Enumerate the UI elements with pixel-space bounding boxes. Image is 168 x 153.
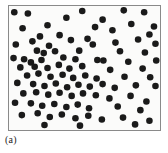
- scatter-point: [44, 65, 51, 72]
- scatter-point: [142, 49, 149, 56]
- scatter-point: [40, 50, 47, 57]
- scatter-point: [41, 83, 48, 90]
- scatter-point: [19, 25, 26, 32]
- scatter-point: [86, 105, 93, 112]
- scatter-point: [56, 32, 63, 39]
- scatter-point: [137, 107, 144, 114]
- scatter-point: [68, 93, 75, 100]
- scatter-point: [93, 92, 100, 99]
- scatter-point: [92, 24, 99, 31]
- scatter-point: [80, 90, 87, 97]
- scatter-point: [45, 91, 52, 98]
- scatter-point: [37, 33, 44, 40]
- scatter-point: [34, 110, 41, 117]
- scatter-point: [77, 122, 84, 129]
- scatter-point: [120, 7, 127, 14]
- scatter-point: [117, 48, 124, 55]
- scatter-point: [56, 90, 63, 97]
- scatter-point: [10, 55, 17, 62]
- scatter-point: [99, 116, 106, 123]
- scatter-point: [127, 93, 134, 100]
- scatter-point: [17, 64, 24, 71]
- scatter-point: [79, 63, 86, 70]
- scatter-point: [79, 8, 86, 15]
- scatter-point: [72, 56, 79, 63]
- scatter-points-layer: [9, 6, 160, 130]
- scatter-point: [59, 72, 66, 79]
- scatter-point: [41, 122, 48, 129]
- scatter-point: [64, 84, 71, 91]
- scatter-point: [120, 114, 127, 121]
- scatter-point: [35, 70, 42, 77]
- scatter-point: [21, 56, 28, 63]
- scatter-point: [143, 98, 150, 105]
- scatter-point: [114, 103, 121, 110]
- scatter-point: [100, 57, 107, 64]
- scatter-point: [11, 9, 18, 16]
- scatter-point: [63, 104, 70, 111]
- scatter-point: [146, 31, 153, 38]
- scatter-point: [112, 39, 119, 46]
- scatter-point: [84, 36, 91, 43]
- panel-caption: (a): [5, 134, 17, 146]
- scatter-point: [59, 111, 66, 118]
- scatter-point: [109, 27, 116, 34]
- scatter-point: [51, 101, 58, 108]
- scatter-point: [53, 80, 60, 87]
- scatter-point: [151, 23, 158, 30]
- scatter-point: [47, 73, 54, 80]
- scatter-point: [68, 37, 75, 44]
- scatter-point: [132, 121, 139, 128]
- scatter-point: [46, 42, 53, 49]
- scatter-point: [139, 65, 146, 72]
- scatter-point: [12, 99, 19, 106]
- scatter-point: [38, 57, 45, 64]
- scatter-point: [20, 90, 27, 97]
- scatter-point: [106, 95, 113, 102]
- scatter-point: [74, 101, 81, 108]
- scatter-point: [86, 83, 93, 90]
- scatter-point: [31, 63, 38, 70]
- scatter-point: [152, 41, 159, 48]
- scatter-point: [63, 14, 70, 21]
- scatter-point: [94, 57, 101, 64]
- scatter-point: [125, 59, 132, 66]
- scatter-point: [133, 82, 140, 89]
- scatter-point: [66, 65, 73, 72]
- scatter-plot-frame: [8, 5, 161, 131]
- scatter-point: [152, 83, 159, 90]
- scatter-point: [99, 16, 106, 23]
- scatter-point: [44, 22, 51, 29]
- scatter-point: [60, 54, 67, 61]
- scatter-point: [14, 80, 21, 87]
- scatter-point: [111, 85, 118, 92]
- scatter-point: [85, 112, 92, 119]
- scatter-point: [25, 10, 32, 17]
- scatter-point: [29, 38, 36, 45]
- scatter-point: [76, 47, 83, 54]
- scatter-point: [93, 75, 100, 82]
- figure-panel: (a): [0, 0, 168, 153]
- scatter-point: [52, 48, 59, 55]
- scatter-point: [39, 103, 46, 110]
- scatter-point: [28, 100, 35, 107]
- scatter-point: [82, 72, 89, 79]
- scatter-point: [46, 114, 53, 121]
- scatter-point: [33, 89, 40, 96]
- scatter-point: [72, 115, 79, 122]
- scatter-point: [128, 21, 135, 28]
- scatter-point: [121, 73, 128, 80]
- scatter-point: [153, 57, 160, 64]
- scatter-point: [19, 112, 26, 119]
- scatter-point: [34, 47, 41, 54]
- scatter-point: [12, 41, 19, 48]
- scatter-point: [99, 81, 106, 88]
- scatter-point: [90, 41, 97, 48]
- scatter-point: [141, 9, 148, 16]
- scatter-point: [56, 62, 63, 69]
- scatter-point: [147, 74, 154, 81]
- scatter-point: [75, 81, 82, 88]
- scatter-point: [135, 36, 142, 43]
- scatter-point: [70, 75, 77, 82]
- scatter-point: [107, 67, 114, 74]
